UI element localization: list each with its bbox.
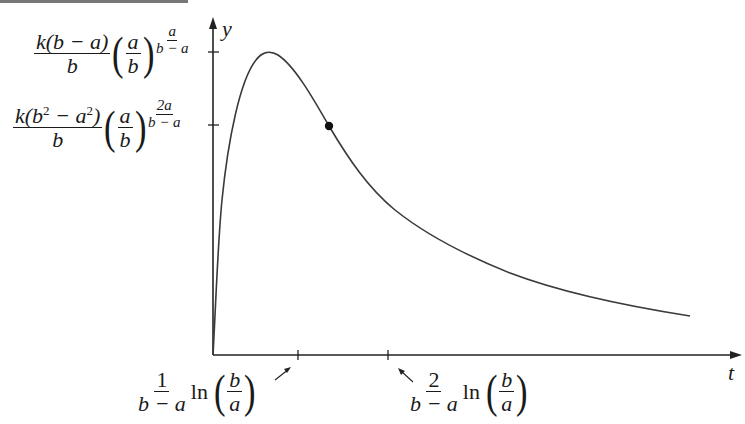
- right-paren: ): [244, 369, 255, 415]
- base-numerator: a: [128, 29, 139, 54]
- coef-numerator-mid: − a: [50, 103, 87, 128]
- y-tick-label-max: k(b − a) b ( a b ) a b − a: [34, 30, 189, 77]
- coef-numerator-prefix: k(b: [15, 103, 43, 128]
- coef-numerator-suffix: ): [93, 103, 100, 128]
- coef-denominator: b − a: [410, 391, 458, 416]
- exponent-numerator: 2a: [157, 97, 172, 113]
- exponent-denominator: b − a: [156, 40, 189, 56]
- x-axis-label: t: [728, 362, 734, 384]
- inflection-point-dot: [325, 122, 333, 130]
- coef-numerator: k(b − a): [36, 29, 108, 54]
- ln-function: ln: [191, 379, 208, 405]
- y-axis-arrow-icon: [209, 17, 217, 29]
- arg-numerator: b: [229, 367, 240, 392]
- arg-denominator: a: [229, 391, 240, 416]
- arg-numerator: b: [501, 367, 512, 392]
- left-paren: (: [486, 369, 497, 415]
- curve: [213, 52, 690, 355]
- y-tick-label-inflection: k(b2 − a2) b ( a b ) 2a b − a: [13, 104, 181, 152]
- coef-numerator: 1: [154, 368, 169, 392]
- coef-denominator: b − a: [138, 391, 186, 416]
- right-paren: ): [135, 105, 146, 151]
- coef-denominator: b: [52, 127, 63, 152]
- x-tick-label-inflection: 2 b − a ln ( b a ): [408, 368, 530, 415]
- y-axis-label: y: [222, 18, 232, 40]
- x-axis-arrow-icon: [730, 351, 742, 359]
- exponent: 2a b − a: [148, 98, 181, 131]
- exponent-denominator: b − a: [148, 114, 181, 130]
- arg-denominator: a: [501, 391, 512, 416]
- base-numerator: a: [120, 103, 131, 128]
- left-paren: (: [214, 369, 225, 415]
- base-denominator: b: [128, 53, 139, 78]
- left-paren: (: [112, 31, 123, 77]
- x-tick-label-max: 1 b − a ln ( b a ): [136, 368, 258, 415]
- right-paren: ): [516, 369, 527, 415]
- right-paren: ): [143, 31, 154, 77]
- exponent-numerator: a: [168, 23, 176, 39]
- coef-denominator: b: [67, 53, 78, 78]
- left-paren: (: [104, 105, 115, 151]
- exponent: a b − a: [156, 24, 189, 57]
- ln-function: ln: [463, 379, 480, 405]
- base-denominator: b: [120, 127, 131, 152]
- coef-numerator: 2: [426, 368, 441, 392]
